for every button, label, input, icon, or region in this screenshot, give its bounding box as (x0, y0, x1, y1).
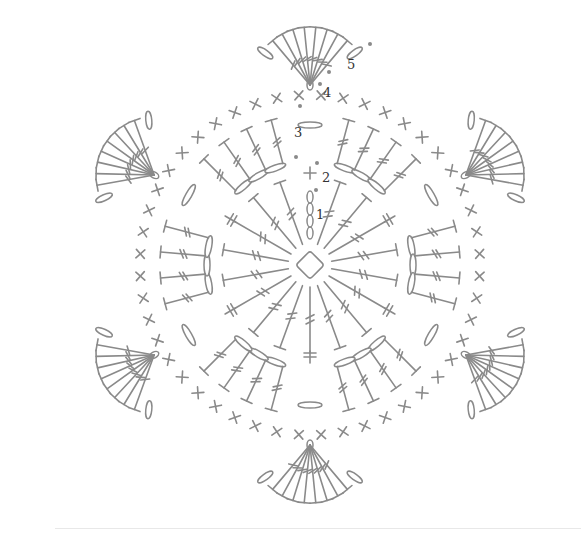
sc-stitch (359, 423, 370, 428)
dc-slash (341, 301, 345, 309)
dc-top (509, 136, 516, 146)
dc-stitch (329, 221, 386, 254)
sc-stitch (437, 147, 438, 159)
dc-slash (339, 140, 348, 142)
dc-stitch (115, 355, 154, 398)
dc-slash (486, 366, 487, 375)
dc-stitch (354, 129, 373, 170)
dc-top (298, 502, 310, 503)
dc-stitch (253, 282, 295, 333)
dc-slash (272, 389, 281, 391)
dc-stitch (234, 221, 291, 254)
chain-stitch (307, 191, 313, 203)
dc-slash (272, 217, 276, 225)
dc-slash (345, 305, 349, 313)
dc-stitch (466, 132, 505, 175)
dc-top (396, 274, 398, 286)
dc-top (310, 502, 322, 503)
dc-stitch (280, 286, 303, 348)
dc-top (119, 401, 129, 407)
dc-slash (342, 220, 351, 222)
chain-stitch (507, 326, 526, 339)
dc-slash (434, 294, 436, 303)
dc-stitch (370, 142, 396, 179)
dc-top (522, 339, 524, 351)
sc-stitch (176, 153, 188, 154)
dc-stitch (224, 351, 250, 388)
start-dot (368, 42, 372, 46)
chain-stitch (423, 323, 440, 347)
magic-ring (296, 251, 324, 279)
sc-stitch (250, 101, 261, 106)
sc-stitch (192, 137, 204, 138)
dc-top (491, 401, 501, 407)
dc-top (104, 136, 111, 146)
chain-stitch (180, 323, 197, 347)
dc-slash (135, 152, 138, 160)
dc-top (96, 179, 98, 191)
dc-slash (286, 318, 295, 319)
start-dot (318, 82, 322, 86)
dc-slash (132, 155, 133, 164)
dc-top (459, 246, 460, 258)
dc-stitch (329, 276, 386, 309)
chain-stitch (95, 191, 114, 204)
dc-stitch (247, 360, 266, 401)
round-label-5: 5 (347, 57, 355, 72)
sc-stitch (472, 295, 482, 302)
sc-stitch (362, 99, 367, 110)
round-label-3: 3 (294, 125, 302, 140)
chain-stitch (307, 203, 313, 215)
dc-top (298, 27, 310, 28)
dc-top (391, 384, 401, 391)
sc-stitch (340, 93, 347, 103)
dc-top (459, 272, 460, 284)
dc-slash (313, 59, 322, 60)
chain-stitch (507, 191, 526, 204)
dc-top (104, 384, 111, 394)
dc-stitch (384, 339, 416, 371)
chain-stitch (233, 334, 254, 353)
start-dot (314, 188, 318, 192)
dc-slash (185, 227, 187, 236)
crochet-chart: 12345 (0, 0, 581, 537)
dc-top (396, 244, 398, 256)
sc-stitch (468, 205, 473, 216)
dc-slash (339, 224, 348, 226)
dc-stitch (97, 345, 154, 355)
dc-stitch (324, 198, 366, 249)
dc-slash (338, 143, 347, 145)
dc-slash (260, 232, 261, 241)
dc-stitch (273, 445, 310, 489)
dc-top (522, 179, 524, 191)
start-dot (315, 161, 319, 165)
chain-stitch (298, 402, 322, 408)
dc-top (509, 384, 516, 394)
chain-stitch (256, 469, 274, 484)
dc-slash (475, 152, 484, 153)
round-label-4: 4 (323, 85, 331, 100)
sc-stitch (466, 317, 477, 322)
dc-slash (269, 308, 278, 310)
dc-stitch (310, 41, 347, 85)
dc-stitch (384, 159, 416, 191)
dc-slash (141, 379, 150, 380)
chain-stitch (145, 400, 153, 418)
dc-stitch (273, 41, 310, 85)
dc-top (333, 31, 344, 37)
dc-slash (322, 64, 331, 66)
dc-slash (323, 216, 332, 217)
divider-line (55, 528, 581, 529)
round-label-2: 2 (322, 170, 330, 185)
dc-slash (325, 211, 334, 212)
dc-slash (234, 367, 243, 368)
chain-stitch (467, 400, 475, 418)
start-dot (294, 155, 298, 159)
sc-stitch (182, 371, 183, 383)
sc-stitch (274, 427, 281, 437)
dc-stitch (310, 445, 347, 489)
dc-top (96, 339, 98, 351)
dc-stitch (280, 182, 303, 244)
dc-top (219, 384, 229, 391)
dc-slash (325, 461, 329, 469)
